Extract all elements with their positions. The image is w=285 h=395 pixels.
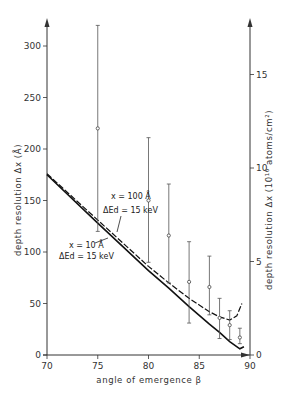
y-tick-label-right: 5 bbox=[256, 257, 262, 267]
error-bar bbox=[238, 328, 242, 343]
error-bar bbox=[96, 25, 100, 231]
y-tick-label-left: 250 bbox=[24, 93, 41, 103]
data-point-marker bbox=[228, 324, 231, 327]
error-bar bbox=[218, 298, 222, 338]
y-tick-label-right: 0 bbox=[256, 350, 262, 360]
x-tick-label: 90 bbox=[244, 361, 256, 371]
x-tick-label: 70 bbox=[41, 361, 53, 371]
y-axis-label-left: depth resolution Δx (Å) bbox=[12, 144, 23, 256]
y-axis-label-right: depth resolution Δx (10¹⁶ atoms/cm²) bbox=[264, 110, 274, 290]
depth-resolution-chart: 7075808590050100150200250300051015 angle… bbox=[0, 0, 285, 395]
annotation-100A-line2: ΔEd = 15 keV bbox=[103, 206, 158, 215]
x-axis-label: angle of emergence β bbox=[96, 375, 201, 385]
annotation-10A-line2: ΔEd = 15 keV bbox=[59, 252, 114, 261]
error-bar bbox=[167, 184, 171, 283]
y-axis-left-arrow-icon bbox=[45, 18, 50, 27]
error-bars bbox=[96, 25, 242, 343]
x-tick-label: 75 bbox=[92, 361, 103, 371]
error-bar bbox=[187, 242, 191, 323]
annotation-100A-line1: x = 100 Å bbox=[111, 190, 151, 201]
y-tick-label-left: 200 bbox=[24, 144, 41, 154]
y-tick-label-left: 100 bbox=[24, 247, 41, 257]
y-tick-label-left: 150 bbox=[24, 196, 41, 206]
x-axis-arrow-icon bbox=[241, 353, 250, 358]
y-tick-label-left: 300 bbox=[24, 41, 41, 51]
annotation-10A-line1: x = 10 Å bbox=[69, 239, 104, 250]
data-point-marker bbox=[238, 336, 241, 339]
data-point-marker bbox=[96, 127, 99, 130]
y-tick-label-left: 50 bbox=[30, 299, 42, 309]
annotation-100A-pointer bbox=[117, 216, 121, 232]
error-bar bbox=[207, 256, 211, 315]
y-axis-right-arrow-icon bbox=[248, 18, 253, 27]
data-point-marker bbox=[188, 280, 191, 283]
y-tick-label-left: 0 bbox=[35, 350, 41, 360]
x-tick-label: 80 bbox=[143, 361, 155, 371]
data-point-marker bbox=[167, 234, 170, 237]
x-tick-label: 85 bbox=[194, 361, 205, 371]
error-bar bbox=[228, 311, 232, 340]
data-point-marker bbox=[218, 316, 221, 319]
y-tick-label-right: 15 bbox=[256, 70, 267, 80]
data-point-marker bbox=[208, 285, 211, 288]
